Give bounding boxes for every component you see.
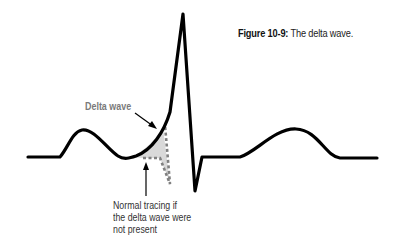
normal-tracing-line-2: the delta wave were bbox=[113, 212, 219, 224]
figure-number: Figure 10-9: bbox=[238, 27, 288, 39]
normal-tracing-line-1: Normal tracing if bbox=[113, 200, 219, 212]
arrow-diagonal-icon bbox=[135, 113, 157, 129]
normal-tracing-line-3: not present bbox=[113, 224, 219, 236]
delta-wave-label: Delta wave bbox=[85, 100, 131, 112]
figure-caption: Figure 10-9: The delta wave. bbox=[238, 27, 353, 39]
arrow-up-icon bbox=[143, 162, 149, 196]
ecg-trace bbox=[28, 14, 377, 191]
figure-title: The delta wave. bbox=[290, 27, 353, 39]
normal-tracing-label: Normal tracing if the delta wave were no… bbox=[113, 200, 219, 236]
